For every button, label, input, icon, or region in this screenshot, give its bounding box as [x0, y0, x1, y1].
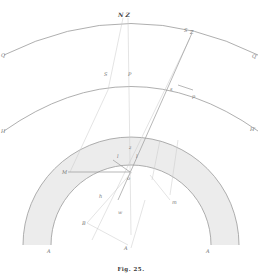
label-right-p: p — [192, 93, 196, 100]
label-outer-right: Q' — [252, 53, 257, 59]
label-b: B — [81, 220, 86, 226]
label-right-s: S — [184, 27, 188, 33]
outer-arc — [4, 24, 258, 56]
figure-caption: Fig. 25. — [0, 266, 262, 272]
label-z: z — [128, 144, 132, 150]
construction-lines — [70, 18, 190, 248]
middle-arc — [4, 87, 258, 132]
label-a-right: A — [205, 248, 210, 254]
label-nz: N Z — [117, 11, 131, 18]
label-mid-p: P — [127, 71, 132, 77]
label-m-upper: M — [61, 169, 68, 175]
label-a-left: A — [46, 248, 51, 254]
label-h: h — [99, 193, 102, 199]
label-mid-right: H' — [249, 126, 256, 132]
label-w: w — [118, 209, 123, 215]
label-a-center: A — [123, 245, 128, 251]
label-m: m — [172, 199, 177, 205]
label-o: o — [127, 175, 130, 181]
label-mid-left: H — [0, 128, 6, 134]
label-outer-left: Q — [1, 52, 5, 58]
label-mid-s: S — [104, 71, 108, 77]
geometric-diagram: N Z Q Q' H H' S P S Z s p M l l z o m h … — [0, 0, 262, 278]
label-right-s-lower: s — [170, 86, 173, 92]
label-right-z: Z — [189, 29, 194, 35]
